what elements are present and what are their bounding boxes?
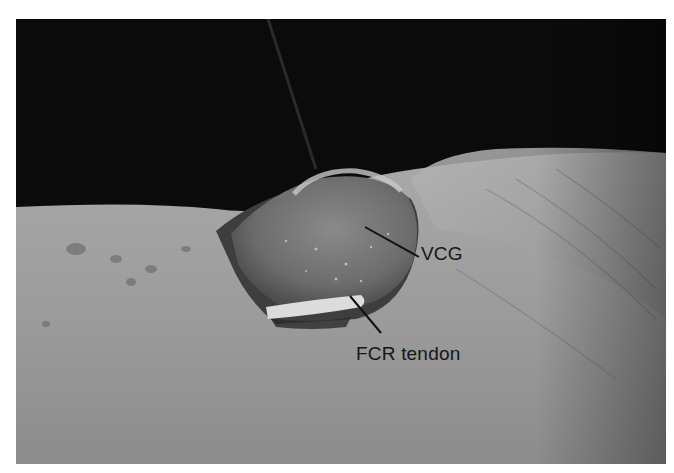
- photo-scene: [16, 19, 666, 464]
- vcg-label: VCG: [421, 243, 463, 265]
- clinical-photo: VCG FCR tendon: [16, 19, 666, 464]
- edge-shading: [16, 19, 666, 464]
- fcr-tendon-label: FCR tendon: [356, 343, 460, 365]
